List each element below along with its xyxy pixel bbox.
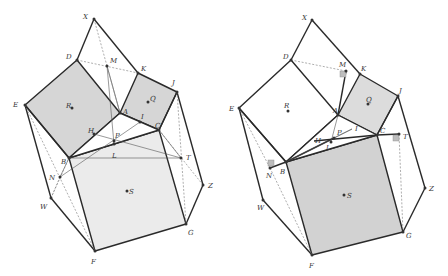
point-label-W: W (257, 204, 265, 212)
point-B (68, 157, 71, 160)
point-D (76, 59, 79, 62)
point-label-K: K (360, 65, 367, 73)
point-label-I: I (140, 113, 144, 121)
point-label-I: I (354, 125, 358, 133)
point-Z (424, 187, 427, 190)
point-label-P: P (336, 129, 342, 137)
point-label-Q: Q (150, 95, 156, 103)
point-label-F: F (308, 262, 315, 270)
point-label-X: X (301, 14, 308, 22)
point-label-A: A (332, 107, 338, 115)
point-F (94, 250, 97, 253)
right-angle-marker-T (393, 135, 399, 141)
point-label-H: H (314, 137, 322, 145)
point-label-K: K (140, 65, 147, 73)
point-label-J: J (170, 79, 176, 87)
point-G (402, 231, 405, 234)
point-label-B: B (60, 158, 66, 166)
point-T (180, 157, 183, 160)
point-S (343, 194, 346, 197)
outer-edge-JZ (398, 96, 425, 188)
point-label-Z: Z (428, 185, 434, 193)
point-label-L: L (111, 152, 117, 160)
point-J (176, 91, 179, 94)
point-label-Q: Q (366, 96, 372, 104)
point-M (106, 65, 109, 68)
point-label-T: T (186, 154, 192, 162)
point-E (238, 107, 241, 110)
outer-edge-JZ (177, 92, 203, 185)
point-label-N: N (48, 174, 56, 182)
point-N (269, 167, 272, 170)
outer-edge-XD (77, 19, 94, 60)
point-G (185, 223, 188, 226)
point-label-G: G (406, 232, 412, 240)
point-label-W: W (40, 203, 48, 211)
point-Z (202, 184, 205, 187)
point-label-M: M (109, 57, 118, 65)
point-label-X: X (82, 13, 89, 21)
point-M (345, 70, 348, 73)
point-label-T: T (403, 133, 409, 141)
point-N (59, 176, 62, 179)
point-label-F: F (90, 258, 97, 266)
point-label-J: J (397, 87, 403, 95)
point-label-R: R (65, 102, 72, 110)
point-label-Z: Z (207, 182, 213, 190)
left-diagram: XDMKJERQAICHPLBTNZSWGF (12, 13, 213, 266)
right-diagram: XDMKJERQAPICTHLBNZSWGF (228, 14, 434, 270)
point-X (311, 19, 314, 22)
point-B (285, 161, 288, 164)
point-label-S: S (347, 192, 352, 200)
point-label-S: S (129, 188, 134, 196)
outer-edge-ZG (186, 185, 203, 224)
point-label-D: D (282, 53, 289, 61)
point-A (119, 112, 122, 115)
point-label-R: R (283, 102, 290, 110)
point-K (137, 72, 140, 75)
point-L (113, 143, 116, 146)
outer-edge-XD (291, 20, 312, 60)
point-P (333, 137, 336, 140)
point-F (311, 254, 314, 257)
point-label-M: M (338, 61, 347, 69)
point-X (93, 18, 96, 21)
point-label-L: L (325, 144, 331, 152)
point-label-C: C (155, 122, 161, 130)
point-label-E: E (12, 101, 18, 109)
point-W (262, 199, 265, 202)
point-label-E: E (228, 105, 234, 113)
point-label-G: G (188, 229, 194, 237)
point-label-A: A (122, 108, 128, 116)
geometry-figure: XDMKJERQAICHPLBTNZSWGF XDMKJERQAPICTHLBN… (0, 0, 448, 276)
outer-edge-ZG (403, 188, 425, 232)
right-angle-marker-N (268, 160, 274, 166)
point-label-N: N (265, 172, 273, 180)
point-label-D: D (65, 53, 72, 61)
point-label-H: H (87, 127, 95, 135)
point-E (24, 104, 27, 107)
point-T (398, 133, 401, 136)
point-label-C: C (380, 127, 386, 135)
point-W (50, 197, 53, 200)
point-C (376, 134, 379, 137)
point-label-B: B (279, 168, 285, 176)
point-label-P: P (114, 132, 120, 140)
point-D (290, 59, 293, 62)
